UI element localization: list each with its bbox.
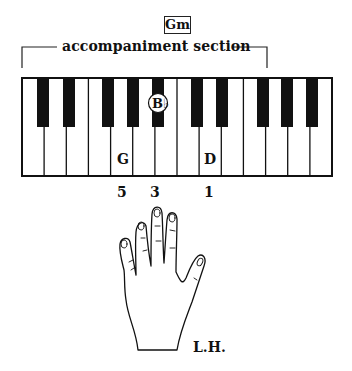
finger-number-3: 3 — [150, 184, 160, 200]
diagram-graphics — [0, 0, 352, 371]
note-label-d: D — [204, 151, 216, 167]
left-hand-illustration — [120, 207, 205, 350]
note-label-bflat: B♭ — [152, 96, 169, 111]
left-hand-label: L.H. — [193, 339, 226, 355]
note-label-g: G — [117, 151, 129, 167]
section-label: accompaniment section — [62, 38, 251, 54]
finger-number-1: 1 — [204, 184, 214, 200]
piano-keyboard — [22, 78, 332, 176]
finger-number-5: 5 — [117, 184, 127, 200]
